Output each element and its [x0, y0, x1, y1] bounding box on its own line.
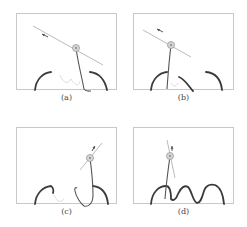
panel-a-drawing — [16, 13, 117, 90]
bump-arc — [179, 77, 193, 91]
arrow-head-icon — [171, 146, 174, 149]
bump-arc — [206, 72, 222, 90]
panel-d-drawing — [133, 127, 234, 204]
faint-curve — [54, 195, 64, 201]
bump-arc — [35, 72, 51, 90]
node-center — [75, 47, 77, 49]
panel-a — [16, 13, 117, 90]
bump-arc — [93, 186, 108, 204]
panel-frame — [17, 128, 117, 204]
tangent-line — [33, 26, 103, 65]
node-center — [89, 157, 91, 159]
panel-b-drawing — [133, 13, 234, 90]
panel-frame — [134, 128, 234, 204]
bump-arc — [90, 72, 107, 90]
panel-c — [16, 127, 117, 204]
caption-c: (c) — [16, 207, 117, 216]
tangent-line — [143, 30, 191, 57]
node-center — [169, 155, 171, 157]
caption-b: (b) — [133, 93, 234, 102]
caption-d: (d) — [133, 207, 234, 216]
bump-arc — [151, 185, 224, 204]
cable-line — [165, 156, 170, 199]
faint-curve — [171, 83, 178, 86]
panel-d — [133, 127, 234, 204]
panel-c-drawing — [16, 127, 117, 204]
bump-arc — [151, 72, 167, 90]
bump-arc — [35, 186, 53, 204]
caption-a: (a) — [16, 93, 117, 102]
panel-b — [133, 13, 234, 90]
cable-line — [167, 45, 171, 89]
node-center — [170, 44, 172, 46]
faint-curve — [60, 75, 80, 85]
